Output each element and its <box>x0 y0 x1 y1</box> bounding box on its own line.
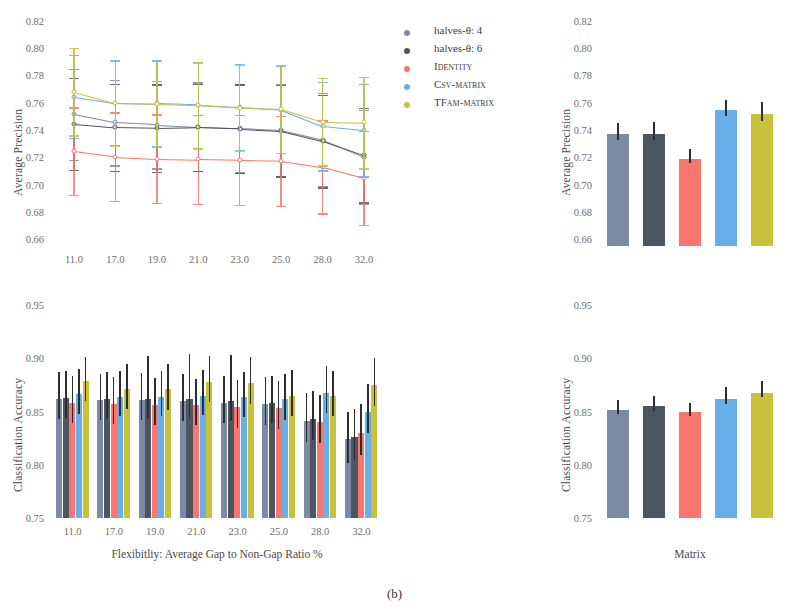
x-axis-label-matrix: Matrix <box>600 548 780 560</box>
error-bar-cap <box>110 61 120 62</box>
bar <box>206 382 212 518</box>
error-bar-line <box>182 374 184 421</box>
error-bar-cap <box>193 62 203 63</box>
error-bar-line <box>106 372 108 419</box>
bar <box>643 406 665 518</box>
legend-csv-matrix[interactable]: Csv-matrix <box>404 78 554 96</box>
error-bar-line <box>725 387 727 403</box>
series-line-segment <box>115 122 156 125</box>
error-bar-cap <box>276 65 286 66</box>
series-data-point <box>113 101 118 106</box>
plot-area-top-right: 0.820.800.780.760.740.720.700.680.66 <box>600 14 780 246</box>
series-line-segment <box>74 151 116 158</box>
legend-item-label: halves-θ: 4 <box>434 24 482 36</box>
panel-top-left-line-chart: 0.820.800.780.760.740.720.700.680.6611.0… <box>52 14 382 246</box>
y-axis-label-classification-accuracy-left: Classification Accuracy <box>12 378 24 492</box>
y-tick-label: 0.75 <box>26 513 44 524</box>
y-tick-label: 0.95 <box>26 300 44 311</box>
series-line-segment <box>157 159 198 161</box>
series-data-point <box>237 158 242 163</box>
error-bar-line <box>209 356 211 402</box>
bar <box>751 114 773 246</box>
legend-halves-theta-4[interactable]: halves-θ: 4 <box>404 24 554 42</box>
y-tick-label: 0.72 <box>26 152 44 163</box>
series-line-segment <box>281 109 323 123</box>
error-bar-line <box>78 369 80 414</box>
bar <box>715 110 737 246</box>
error-bar-line <box>653 396 655 410</box>
x-tick-label: 28.0 <box>311 526 329 537</box>
error-bar-cap <box>318 78 328 79</box>
error-bar-line <box>65 371 67 418</box>
error-bar-cap <box>69 135 79 136</box>
error-bar-line <box>354 409 356 460</box>
x-tick-label: 23.0 <box>228 526 246 537</box>
x-tick-label: 19.0 <box>146 526 164 537</box>
legend-item-label: TFam-matrix <box>434 96 494 108</box>
series-line-segment <box>115 127 156 129</box>
y-tick-label: 0.72 <box>574 152 592 163</box>
y-tick-label: 0.70 <box>574 179 592 190</box>
y-tick-label: 0.80 <box>574 43 592 54</box>
error-bar-cap <box>235 151 245 152</box>
legend-identity[interactable]: Identity <box>404 60 554 78</box>
error-bar-cap <box>152 61 162 62</box>
error-bar-line <box>689 149 691 163</box>
bar <box>679 159 701 246</box>
series-data-point <box>237 106 242 111</box>
error-bar-line <box>360 404 362 455</box>
y-tick-label: 0.70 <box>26 179 44 190</box>
error-bar-line <box>202 370 204 415</box>
series-line-segment <box>74 124 116 129</box>
y-tick-label: 0.78 <box>574 70 592 81</box>
x-tick-label: 17.0 <box>106 254 124 265</box>
x-tick-label: 21.0 <box>189 254 207 265</box>
y-tick-label: 0.80 <box>574 459 592 470</box>
y-axis-label-average-precision-top: Average Precision <box>12 109 24 196</box>
error-bar-line <box>271 376 273 424</box>
series-line-segment <box>198 127 239 130</box>
error-bar-cap <box>359 225 369 226</box>
legend-color-swatch <box>404 48 410 54</box>
x-tick-label: 23.0 <box>231 254 249 265</box>
y-tick-label: 0.82 <box>574 15 592 26</box>
y-axis-label-classification-accuracy-right: Classification Accuracy <box>560 378 572 492</box>
panel-bottom-right-bar-chart: 0.950.900.850.800.75 <box>600 300 780 518</box>
legend-halves-theta-6[interactable]: halves-θ: 6 <box>404 42 554 60</box>
error-bar-line <box>147 356 149 419</box>
y-tick-label: 0.95 <box>574 300 592 311</box>
error-bar-line <box>100 374 102 420</box>
legend-tfam-matrix[interactable]: TFam-matrix <box>404 96 554 114</box>
y-tick-label: 0.74 <box>574 125 592 136</box>
x-tick-label: 28.0 <box>313 254 331 265</box>
error-bar-line <box>347 412 349 463</box>
series-data-point <box>196 157 201 162</box>
legend-item-label: Identity <box>434 60 472 72</box>
y-tick-label: 0.76 <box>574 97 592 108</box>
series-data-point <box>72 89 77 94</box>
error-bar-line <box>230 355 232 421</box>
error-bar-line <box>250 357 252 403</box>
series-line-segment <box>240 108 281 110</box>
series-data-point <box>279 158 284 163</box>
y-tick-label: 0.85 <box>26 406 44 417</box>
y-axis-label-average-precision-right: Average Precision <box>560 109 572 196</box>
x-axis-label-flexibility: Flexibitliy: Average Gap to Non-Gap Rati… <box>52 548 382 560</box>
error-bar-line <box>161 371 163 416</box>
series-line-segment <box>157 127 198 129</box>
series-line-segment <box>281 161 323 168</box>
error-bar-cap <box>152 203 162 204</box>
error-bar-line <box>653 122 655 139</box>
error-bar-line <box>617 123 619 139</box>
y-tick-label: 0.76 <box>26 97 44 108</box>
series-line-segment <box>157 104 198 107</box>
bar <box>679 412 701 518</box>
y-tick-label: 0.66 <box>26 234 44 245</box>
bar <box>715 399 737 518</box>
series-line-segment <box>115 157 156 160</box>
error-bar-line <box>154 378 156 425</box>
error-bar-cap <box>359 77 369 78</box>
error-bar-cap <box>318 170 328 171</box>
y-tick-label: 0.80 <box>26 459 44 470</box>
series-data-point <box>362 120 367 125</box>
